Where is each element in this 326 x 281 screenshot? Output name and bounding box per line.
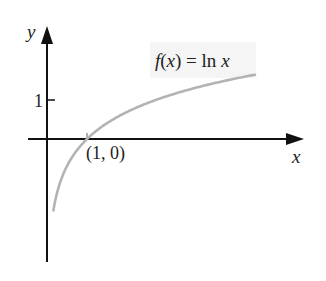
point-annotation: (1, 0) <box>86 143 125 164</box>
ln-graph: y x 1 (1, 0) f(x) = ln x <box>0 0 326 281</box>
x-axis-arrow-icon <box>286 133 304 145</box>
y-axis-label: y <box>25 21 36 42</box>
ln-curve <box>53 75 255 211</box>
y-tick-label-1: 1 <box>34 91 43 111</box>
function-label: f(x) = ln x <box>155 50 230 72</box>
y-axis-arrow-icon <box>41 26 53 44</box>
x-axis-label: x <box>291 146 301 167</box>
